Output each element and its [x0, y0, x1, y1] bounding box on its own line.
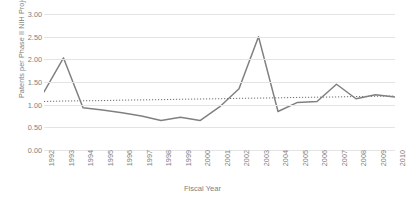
x-tick-label: 1997	[145, 150, 154, 166]
gridline	[44, 127, 395, 128]
gridline	[44, 14, 395, 15]
x-tick-label: 1998	[164, 150, 173, 166]
x-tick-label: 2003	[262, 150, 271, 166]
y-tick-label: 2.00	[28, 55, 42, 64]
x-tick-label: 2010	[398, 150, 407, 166]
x-tick-label: 2008	[359, 150, 368, 166]
gridline	[44, 37, 395, 38]
x-tick-label: 1999	[184, 150, 193, 166]
y-tick-label: 1.50	[28, 78, 42, 87]
x-tick-label: 2005	[301, 150, 310, 166]
x-tick-label: 1994	[86, 150, 95, 166]
x-tick-label: 2001	[223, 150, 232, 166]
y-tick-label: 0.00	[28, 146, 42, 155]
y-tick-label: 0.50	[28, 123, 42, 132]
x-tick-label: 1993	[67, 150, 76, 166]
x-axis-title: Fiscal Year	[0, 184, 405, 193]
y-axis-tick-labels: 3.002.502.001.501.000.500.00	[12, 0, 42, 200]
data-line-series	[44, 37, 395, 121]
x-tick-label: 1995	[106, 150, 115, 166]
y-tick-label: 3.00	[28, 10, 42, 19]
gridline	[44, 105, 395, 106]
x-axis-tick-labels: 1992199319941995199619971998199920002001…	[44, 150, 395, 184]
gridline	[44, 59, 395, 60]
x-tick-label: 2004	[281, 150, 290, 166]
plot-area	[44, 14, 395, 150]
x-tick-label: 1992	[47, 150, 56, 166]
x-tick-label: 1996	[125, 150, 134, 166]
x-tick-label: 2009	[379, 150, 388, 166]
x-tick-label: 2002	[242, 150, 251, 166]
y-tick-label: 2.50	[28, 32, 42, 41]
trend-line-series	[44, 96, 395, 101]
gridline	[44, 82, 395, 83]
x-tick-label: 2000	[203, 150, 212, 166]
x-tick-label: 2007	[340, 150, 349, 166]
x-tick-label: 2006	[320, 150, 329, 166]
y-tick-label: 1.00	[28, 100, 42, 109]
